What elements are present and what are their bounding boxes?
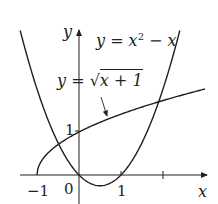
x-tick-label-1: 1 [117, 184, 127, 199]
y-tick-label-1: 1 [65, 123, 75, 138]
radical-sign: √ [90, 71, 100, 90]
x-tick-label-neg1: −1 [27, 184, 49, 199]
x-axis-label: x [198, 184, 207, 200]
parabola-equation: y = x2 − x [96, 32, 177, 49]
y-axis-label: y [63, 24, 72, 40]
chart-figure: y x −1 0 1 1 y = x2 − x y = √x + 1 [0, 0, 218, 204]
parabola-curve [20, 31, 180, 186]
x-tick-label-0: 0 [64, 182, 74, 197]
sqrt-curve [37, 89, 205, 175]
annotation-arrow [101, 97, 107, 116]
sqrt-equation: y = √x + 1 [57, 73, 143, 89]
